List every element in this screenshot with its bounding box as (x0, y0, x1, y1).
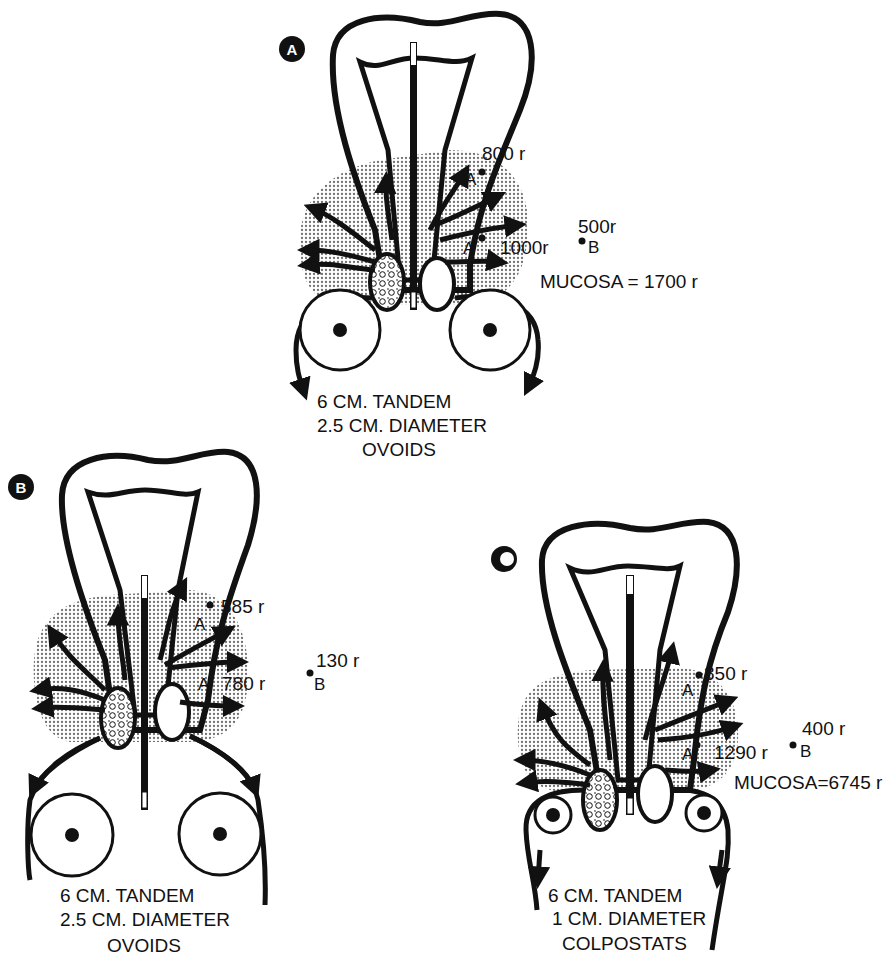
tumor (101, 688, 135, 748)
brachytherapy-dose-diagram: A 800 r (0, 0, 887, 967)
caption-line-2: 2.5 CM. DIAMETER (60, 909, 230, 930)
panel-a: A 800 r (279, 14, 699, 460)
tandem (626, 575, 634, 815)
point-a-lower-dose: 780 r (222, 673, 266, 694)
tumor (370, 254, 404, 310)
cervix-lip (420, 258, 454, 310)
point-b-dose: 130 r (316, 650, 360, 671)
caption-line-2: 1 CM. DIAMETER (552, 908, 706, 929)
point-a-lower-label: A (463, 239, 475, 258)
caption-line-1: 6 CM. TANDEM (317, 391, 451, 412)
mucosa-dose: MUCOSA = 1700 r (540, 271, 699, 292)
point-b-dose: 500r (578, 216, 617, 237)
tandem (141, 575, 148, 810)
point-a-lower-dose: 1290 r (714, 742, 769, 763)
caption-line-3: OVOIDS (362, 439, 436, 460)
tumor (583, 770, 617, 830)
cervix-lip (638, 766, 672, 822)
tandem (410, 42, 417, 310)
caption-line-1: 6 CM. TANDEM (548, 885, 682, 906)
panel-badge-c (491, 546, 517, 572)
panel-badge-b: B (8, 474, 34, 500)
point-a-upper-dose: 800 r (482, 143, 526, 164)
point-a-upper-label: A (194, 615, 206, 634)
point-b-label: B (314, 675, 325, 694)
caption-line-3: OVOIDS (107, 935, 181, 956)
point-a-upper-label: A (682, 681, 694, 700)
caption-line-1: 6 CM. TANDEM (60, 885, 194, 906)
cervix-lip (155, 684, 189, 740)
caption-line-3: COLPOSTATS (562, 933, 687, 954)
point-a-lower-label: A (198, 675, 210, 694)
point-b-label: B (800, 742, 811, 761)
point-a-upper-dose: 850 r (704, 663, 748, 684)
panel-b: B 585 r A A 780 r 1 (8, 452, 360, 956)
point-b-label: B (588, 238, 599, 257)
point-a-lower-dose: 1000r (500, 237, 549, 258)
caption-line-2: 2.5 CM. DIAMETER (317, 415, 487, 436)
svg-text:B: B (16, 479, 27, 496)
point-a-upper-dose: 585 r (221, 596, 265, 617)
point-a-upper-label: A (465, 170, 477, 189)
panel-badge-a: A (279, 36, 305, 62)
svg-text:A: A (287, 41, 298, 58)
point-a-lower-label: A (682, 745, 694, 764)
mucosa-dose: MUCOSA=6745 r (734, 772, 883, 793)
point-b-dose: 400 r (802, 718, 846, 739)
panel-c: 850 r A A 1290 r 400 r B MUCOSA=6745 r 6… (491, 522, 883, 954)
